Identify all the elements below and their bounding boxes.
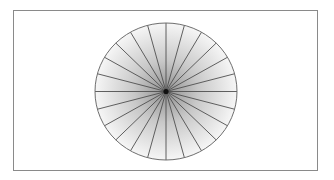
hub-dot [163, 89, 168, 94]
diagram-canvas [0, 0, 334, 180]
spoke-wheel-figure [0, 0, 334, 180]
